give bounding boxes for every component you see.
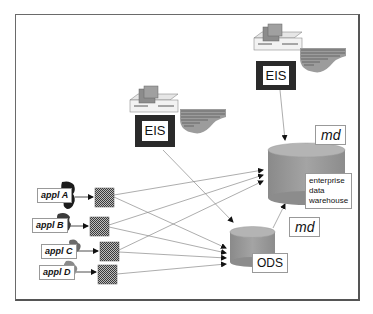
flow-ods-to-warehouse bbox=[273, 204, 285, 228]
eis-middle-box: EIS bbox=[135, 115, 175, 147]
eis-top-report-icon bbox=[300, 48, 346, 72]
flow-eis-to-warehouse bbox=[280, 90, 285, 140]
extract-box-a bbox=[95, 188, 114, 207]
eis-top-right-label: EIS bbox=[263, 66, 289, 85]
eis-middle-label: EIS bbox=[142, 121, 168, 141]
flow-b-to-warehouse bbox=[109, 175, 263, 225]
warehouse-metadata-label: md bbox=[315, 125, 346, 145]
appl-d-label: appl D bbox=[39, 265, 75, 280]
flow-eis-to-ods bbox=[163, 150, 233, 222]
ods-metadata-label: md bbox=[289, 217, 320, 237]
warehouse-label: enterprise data warehouse bbox=[305, 173, 352, 209]
appl-c-label: appl C bbox=[41, 244, 77, 259]
extract-box-b bbox=[90, 217, 109, 236]
flow-c-to-ods bbox=[119, 252, 226, 258]
eis-middle-workstation-icon bbox=[130, 86, 178, 112]
extract-boxes bbox=[90, 188, 119, 284]
appl-a-label: appl A bbox=[37, 188, 72, 203]
eis-top-right-box: EIS bbox=[256, 61, 296, 90]
eis-top-workstation-icon bbox=[254, 24, 302, 50]
extract-box-d bbox=[98, 265, 117, 284]
eis-middle-report-icon bbox=[180, 109, 226, 133]
appl-b-label: appl B bbox=[32, 218, 68, 233]
ods-label: ODS bbox=[252, 253, 288, 273]
flow-d-to-ods bbox=[117, 264, 226, 274]
extract-box-c bbox=[100, 242, 119, 261]
